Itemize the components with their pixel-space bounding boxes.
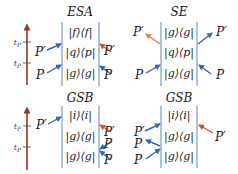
diagram-canvas: ESA|f⟩⟨f||q⟩⟨p||g⟩⟨g|tPtPP′PP′P SE|g⟩⟨g|… (0, 0, 238, 174)
pulse-label: P′ (103, 44, 115, 58)
projector-label: |q⟩⟨p| (164, 46, 194, 60)
projector-label: |i⟩⟨i| (69, 109, 92, 123)
projector-label: |g⟩⟨g| (164, 67, 194, 81)
pulse-arrow-icon (146, 140, 160, 146)
projector-label: |q⟩⟨p| (65, 46, 95, 60)
pulse-label: P′ (35, 118, 47, 132)
pulse-label: P (103, 153, 113, 167)
time-tick-label: tP (14, 122, 22, 132)
projector-label: |g⟩⟨g| (164, 150, 194, 164)
pulse-arrow-icon (145, 124, 160, 131)
pulse-arrow-icon (199, 125, 213, 133)
pulse-arrow-icon (47, 44, 61, 50)
pulse-label: P′ (214, 130, 226, 144)
pulse-label: P (133, 153, 143, 167)
projector-label: |g⟩⟨g| (164, 26, 194, 40)
projector-label: |f⟩⟨f| (68, 26, 92, 40)
pulse-arrow-icon (146, 34, 160, 44)
panel-title: GSB (67, 91, 94, 105)
pulse-arrow-icon (146, 65, 160, 73)
pulse-label: P (35, 68, 45, 82)
pulse-label: P′ (34, 45, 46, 59)
panel-title: SE (171, 5, 188, 19)
panel-title: GSB (166, 91, 193, 105)
panel-gsb-left: GSB|i⟩⟨i||g⟩⟨g||g⟩⟨g|tPtPP′P′PP (14, 91, 115, 170)
projector-label: |g⟩⟨g| (65, 130, 95, 144)
pulse-label: P′ (215, 25, 227, 39)
pulse-arrow-icon (198, 33, 212, 44)
pulse-arrow-icon (48, 117, 61, 124)
pulse-label: P (133, 137, 143, 151)
projector-label: |g⟩⟨g| (164, 130, 194, 144)
projector-label: |g⟩⟨g| (65, 150, 95, 164)
panel-esa: ESA|f⟩⟨f||q⟩⟨p||g⟩⟨g|tPtPP′PP′P (14, 5, 115, 86)
pulse-label: P (103, 137, 113, 151)
pulse-arrow-icon (146, 149, 160, 159)
panel-se: SE|g⟩⟨g||q⟩⟨p||g⟩⟨g|P′PP′P (132, 5, 227, 86)
pulse-label: P (103, 68, 113, 82)
projector-label: |i⟩⟨i| (167, 109, 190, 123)
pulse-arrow-icon (199, 65, 211, 74)
pulse-label: P (134, 68, 144, 82)
pulse-arrow-icon (47, 65, 61, 73)
projector-label: |g⟩⟨g| (65, 67, 95, 81)
time-tick-label: tP (14, 143, 22, 153)
panel-title: ESA (66, 5, 93, 19)
pulse-label: P (215, 68, 225, 82)
pulse-label: P′ (132, 25, 144, 39)
time-tick-label: tP (14, 38, 22, 48)
panel-gsb-right: GSB|i⟩⟨i||g⟩⟨g||g⟩⟨g|P′PPP′ (133, 91, 226, 168)
time-tick-label: tP (14, 59, 22, 69)
